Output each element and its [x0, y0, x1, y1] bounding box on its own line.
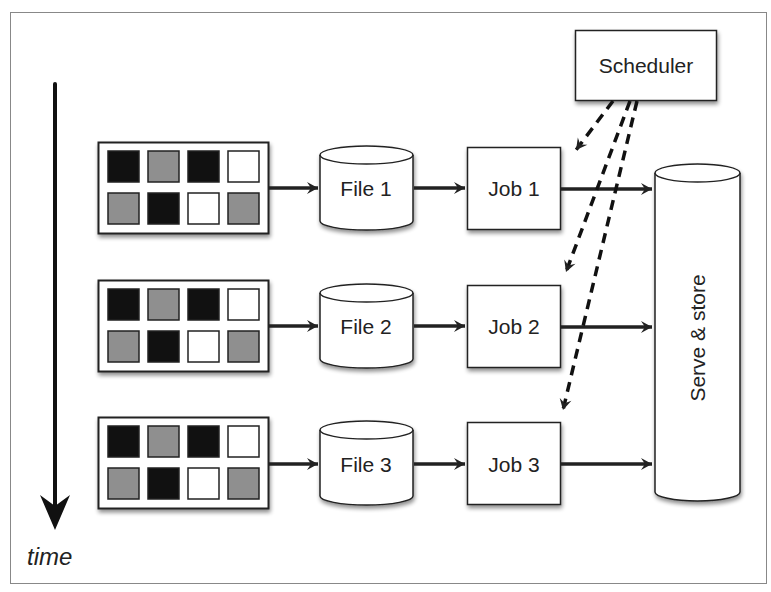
- file-3-label: File 3: [340, 453, 391, 476]
- job-2-label: Job 2: [488, 315, 539, 338]
- serve-store-node: Serve & store: [655, 164, 740, 501]
- batch-processing-diagram: time Scheduler Serve & store: [0, 0, 771, 592]
- scheduler-label: Scheduler: [599, 54, 694, 77]
- serve-store-label: Serve & store: [686, 274, 709, 401]
- file-1-label: File 1: [340, 177, 391, 200]
- time-label: time: [27, 543, 72, 570]
- job-1-label: Job 1: [488, 177, 539, 200]
- file-2-label: File 2: [340, 315, 391, 338]
- job-3-label: Job 3: [488, 453, 539, 476]
